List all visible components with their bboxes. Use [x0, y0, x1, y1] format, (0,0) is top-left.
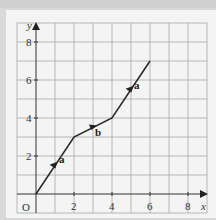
- x-tick-label: 2: [71, 200, 77, 212]
- x-axis-label: x: [200, 200, 206, 212]
- x-tick-label: 4: [109, 200, 115, 212]
- vector-b-label: b: [95, 126, 101, 138]
- axes: [17, 27, 203, 213]
- vector-diagram: y x O 2 4 6 8 2 4 6 8 a b a: [0, 0, 216, 220]
- origin-label: O: [22, 201, 30, 213]
- y-tick-label: 4: [26, 112, 32, 124]
- x-tick-label: 8: [185, 200, 191, 212]
- vector-a-label: a: [134, 79, 140, 91]
- y-tick-label: 8: [26, 36, 32, 48]
- y-tick-label: 2: [26, 150, 32, 162]
- x-tick-label: 6: [147, 200, 153, 212]
- y-axis-label: y: [26, 19, 32, 31]
- y-tick-label: 6: [26, 74, 32, 86]
- vector-a-label: a: [59, 153, 65, 165]
